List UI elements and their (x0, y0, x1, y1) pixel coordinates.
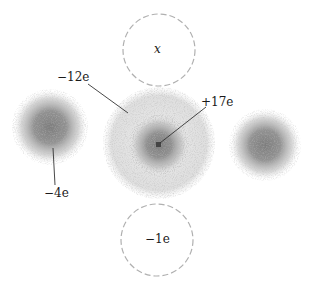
label-bottom-circle: −1e (145, 232, 170, 246)
right-electron-cloud (229, 109, 301, 181)
leader-line-shell (88, 84, 128, 113)
label-nucleus: +17e (201, 95, 233, 109)
label-outer-shell: −12e (57, 70, 89, 84)
left-electron-cloud (12, 89, 88, 165)
label-top-circle: x (154, 42, 161, 56)
label-left-cloud: −4e (44, 186, 69, 200)
